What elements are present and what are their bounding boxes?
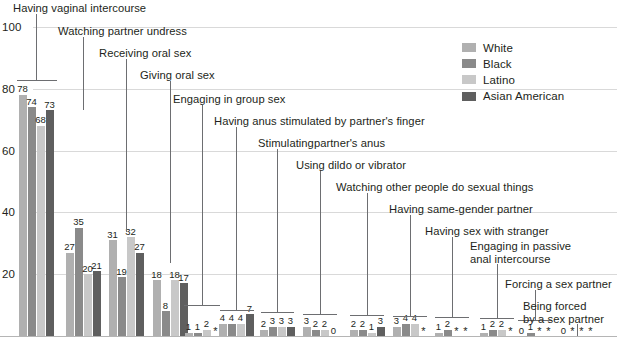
bar-value-label: 19 xyxy=(116,266,127,277)
bar-value-suppressed: * xyxy=(588,325,592,337)
legend-item-white[interactable]: White xyxy=(462,41,564,55)
bar xyxy=(498,330,506,336)
bar xyxy=(185,333,193,336)
bar xyxy=(260,330,268,336)
legend-swatch-icon xyxy=(462,92,476,101)
bar xyxy=(444,330,452,336)
bar xyxy=(303,327,311,336)
bar xyxy=(321,330,329,336)
callout-leader-elbow xyxy=(261,312,294,313)
y-axis-tick-label: 20 xyxy=(2,268,15,280)
bar xyxy=(153,280,161,336)
bar-value-suppressed: * xyxy=(579,325,583,337)
callout-leader-elbow xyxy=(184,305,220,306)
bar-value-label: 0 xyxy=(519,325,524,336)
legend-item-label: Asian American xyxy=(483,90,564,102)
bar xyxy=(237,324,245,336)
callout-leader-elbow xyxy=(17,80,57,81)
bar-value-suppressed: * xyxy=(454,325,458,337)
legend-item-black[interactable]: Black xyxy=(462,57,564,71)
callout-leader-line xyxy=(170,81,171,263)
bar xyxy=(350,330,358,336)
bar-value-label: 0 xyxy=(561,325,566,336)
bar-value-label: 35 xyxy=(73,216,84,227)
bar-value-label: 4 xyxy=(412,312,417,323)
bar-value-label: 1 xyxy=(436,321,441,332)
bar-value-label: 4 xyxy=(238,312,243,323)
bar xyxy=(278,327,286,336)
y-axis-tick-label: 60 xyxy=(2,145,15,157)
category-callout-label: Being forced by a sex partner xyxy=(523,300,604,325)
category-callout-label: Engaging in group sex xyxy=(173,93,285,106)
chart-legend: WhiteBlackLatinoAsian American xyxy=(462,41,564,105)
x-axis-baseline xyxy=(0,336,617,337)
callout-leader-elbow xyxy=(303,314,337,315)
bar-value-label: 27 xyxy=(64,241,75,252)
bar-value-label: 2 xyxy=(499,318,504,329)
bar-value-label: 17 xyxy=(178,272,189,283)
bar-value-suppressed: * xyxy=(213,325,217,337)
bar-value-suppressed: * xyxy=(570,325,574,337)
bar-value-label: 68 xyxy=(35,114,46,125)
bar-value-label: 1 xyxy=(195,321,200,332)
bar-value-label: 0 xyxy=(331,325,336,336)
gridline xyxy=(33,151,617,152)
bar-value-label: 2 xyxy=(204,318,209,329)
bar-value-label: 1 xyxy=(481,321,486,332)
category-callout-label: Having vaginal intercourse xyxy=(13,2,146,15)
bar-value-label: 1 xyxy=(186,321,191,332)
bar-value-label: 21 xyxy=(91,260,102,271)
bar xyxy=(435,333,443,336)
bar-value-label: 73 xyxy=(44,99,55,110)
bar-value-label: 2 xyxy=(360,318,365,329)
callout-leader-line xyxy=(497,264,498,318)
category-callout-label: Watching partner undress xyxy=(58,25,187,38)
bar-value-label: 4 xyxy=(403,312,408,323)
bar xyxy=(84,274,92,336)
bar xyxy=(269,327,277,336)
category-callout-label: Having anus stimulated by partner's fing… xyxy=(214,115,425,128)
category-callout-label: Stimulatingpartner's anus xyxy=(258,137,385,150)
bar xyxy=(393,327,401,336)
bar xyxy=(37,126,45,336)
bar xyxy=(480,333,488,336)
callout-leader-elbow xyxy=(435,317,469,318)
callout-leader-elbow xyxy=(480,318,514,319)
category-callout-label: Having same-gender partner xyxy=(389,203,533,216)
bar-value-label: 2 xyxy=(445,318,450,329)
callout-leader-line xyxy=(410,215,411,316)
bar xyxy=(19,95,27,336)
callout-leader-line xyxy=(236,127,237,310)
bar-value-label: 2 xyxy=(351,318,356,329)
bar xyxy=(246,314,254,336)
bar-value-label: 78 xyxy=(17,83,28,94)
legend-swatch-icon xyxy=(462,75,476,84)
bar xyxy=(28,107,36,336)
bar xyxy=(171,280,179,336)
bar-value-label: 3 xyxy=(304,315,309,326)
bar xyxy=(109,240,117,336)
legend-swatch-icon xyxy=(462,59,476,68)
callout-leader-line xyxy=(320,171,321,314)
category-callout-label: Receiving oral sex xyxy=(99,47,191,60)
bar-value-label: 4 xyxy=(220,312,225,323)
bar xyxy=(411,324,419,336)
bar-value-label: 3 xyxy=(378,315,383,326)
bar xyxy=(194,333,202,336)
legend-item-latino[interactable]: Latino xyxy=(462,73,564,87)
bar-value-label: 27 xyxy=(134,241,145,252)
legend-item-asian-american[interactable]: Asian American xyxy=(462,89,564,103)
bar-value-label: 3 xyxy=(288,315,293,326)
callout-leader-line xyxy=(202,105,203,305)
bar-value-label: 8 xyxy=(163,300,168,311)
bar xyxy=(46,110,54,336)
bar xyxy=(312,330,320,336)
bar-value-label: 31 xyxy=(107,229,118,240)
bar-value-suppressed: * xyxy=(537,325,541,337)
callout-leader-elbow xyxy=(220,310,254,311)
legend-item-label: Latino xyxy=(483,74,515,86)
callout-leader-line xyxy=(577,324,578,336)
callout-leader-elbow xyxy=(350,315,384,316)
category-callout-label: Having sex with stranger xyxy=(425,225,549,238)
bar-value-label: 1 xyxy=(369,321,374,332)
